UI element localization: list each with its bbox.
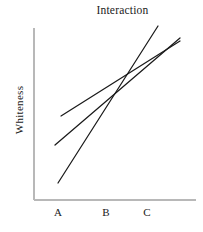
line-steep xyxy=(58,26,158,183)
plot-canvas xyxy=(0,0,203,232)
line-shallow xyxy=(61,41,180,116)
x-tick-label-b: B xyxy=(96,206,116,218)
line-middle xyxy=(55,38,180,145)
series-lines-group xyxy=(55,26,180,183)
x-tick-label-c: C xyxy=(137,206,157,218)
x-tick-label-a: A xyxy=(48,206,68,218)
interaction-plot: Interaction Whiteness ABC xyxy=(0,0,203,232)
